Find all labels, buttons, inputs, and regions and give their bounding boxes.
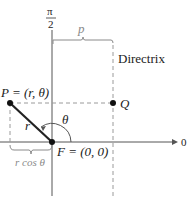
focus-label: F = (0, 0) — [56, 144, 108, 159]
p-label: p — [77, 21, 85, 36]
directrix-label: Directrix — [118, 51, 165, 66]
axis-label-zero: 0 — [181, 136, 187, 148]
point-q-label: Q — [120, 96, 130, 111]
rcos-brace — [10, 145, 52, 154]
point-p-label: P = (r, θ) — [0, 85, 49, 100]
point-f — [49, 139, 55, 145]
axis-label-two: 2 — [48, 18, 54, 30]
axis-label-pi: π — [47, 5, 53, 17]
point-p — [7, 100, 13, 106]
point-q — [110, 100, 116, 106]
radius-segment — [10, 103, 52, 142]
polar-directrix-diagram: π 2 0 p Directrix P = (r, θ) Q r θ F = (… — [0, 0, 193, 205]
p-brace — [53, 37, 113, 44]
angle-label: θ — [62, 112, 69, 127]
rcos-label: r cos θ — [15, 156, 45, 168]
axis-arrow-icon — [172, 139, 178, 145]
